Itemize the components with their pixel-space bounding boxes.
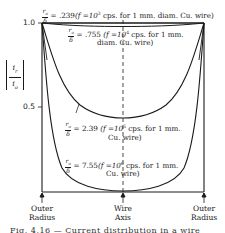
y-tick-label-1: 1.0 [23,19,35,27]
y-axis-fraction: ir io [9,62,21,92]
x-label-wire-axis: WireAxis [103,204,143,222]
y-tick-label-05: 0.5 [23,103,35,111]
y-axis-label: ir io [6,60,24,90]
annotation-r0-0239: roδ = .239(f =103 cps. for 1 mm. diam. C… [42,8,214,24]
annotation-r0-0755-line2: diam. Cu. wire) [97,39,153,47]
x-arrows [40,193,206,203]
y-ticks [38,23,42,107]
annotation-r0-755-line2: Cu. wire) [106,170,140,178]
abs-bar-right [23,60,24,90]
abs-bar-left [6,60,7,90]
x-label-right-outer-radius: OuterRadius [184,204,224,222]
x-label-left-outer-radius: OuterRadius [22,204,62,222]
figure-caption-partial: Fig. 4.16 — Current distribution in a wi… [10,226,200,233]
pointer-239 [76,104,79,113]
annotation-r0-239-line2: Cu. wire) [108,134,142,142]
